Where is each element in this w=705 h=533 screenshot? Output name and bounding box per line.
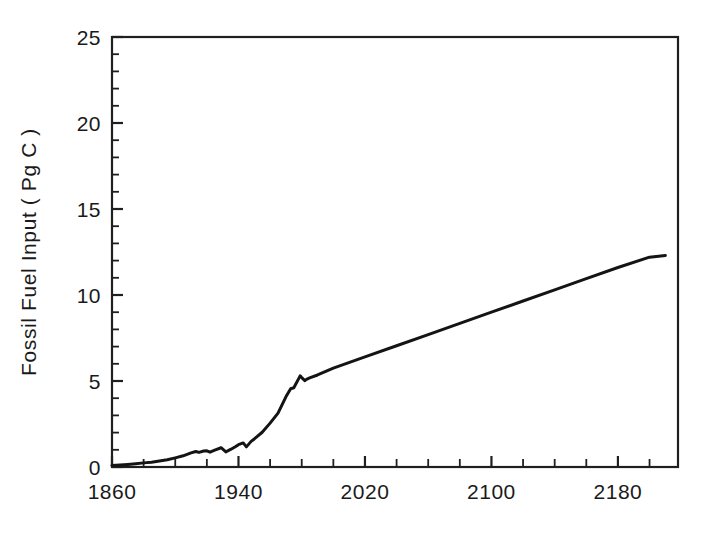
y-tick-label: 25: [77, 26, 101, 49]
y-tick-label: 20: [77, 112, 101, 135]
y-tick-label: 0: [89, 456, 101, 479]
chart-background: [0, 0, 705, 533]
x-tick-label: 1940: [214, 480, 263, 503]
x-tick-label: 2100: [467, 480, 516, 503]
y-tick-label: 10: [77, 284, 101, 307]
chart-figure: 0510152025 18601940202021002180 Fossil F…: [0, 0, 705, 533]
y-tick-label: 15: [77, 198, 101, 221]
y-axis-title: Fossil Fuel Input ( Pg C ): [17, 128, 40, 376]
x-tick-label: 2020: [341, 480, 390, 503]
fossil-fuel-input-line-chart: 0510152025 18601940202021002180 Fossil F…: [0, 0, 705, 533]
x-tick-label: 2180: [594, 480, 643, 503]
y-tick-label: 5: [89, 370, 101, 393]
x-tick-label: 1860: [88, 480, 137, 503]
